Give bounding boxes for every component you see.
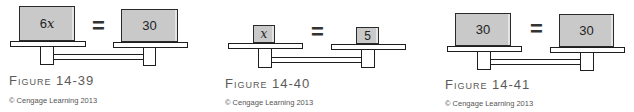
left-weight-coefficient: 30 <box>476 22 490 37</box>
balance-rod <box>490 59 581 65</box>
right-weight-value: 30 <box>579 23 593 38</box>
right-weight-box: 30 <box>559 14 614 47</box>
left-post <box>477 52 491 70</box>
figure-14-41: 30 = 30 Figure 14-41 © Cengage Learning … <box>0 0 634 112</box>
equals-sign: = <box>530 18 543 40</box>
left-weight-box: 30 <box>455 13 511 46</box>
right-post <box>580 53 594 71</box>
copyright-notice: © Cengage Learning 2013 <box>445 99 533 108</box>
figure-caption: Figure 14-41 <box>445 77 530 92</box>
